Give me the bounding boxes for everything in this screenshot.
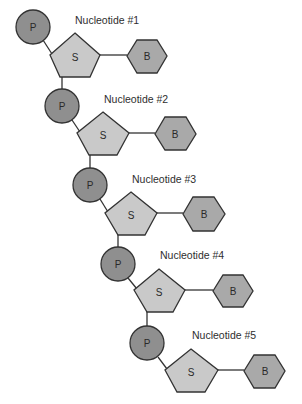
- nucleotide-2: P S B Nucleotide #2: [45, 89, 196, 168]
- base-symbol: B: [172, 129, 179, 140]
- nucleotide-label: Nucleotide #2: [104, 93, 168, 105]
- sugar-symbol: S: [72, 52, 79, 63]
- sugar-symbol: S: [128, 210, 135, 221]
- nucleotide-chain-diagram: P S B Nucleotide #1 P S B Nucleotide #2 …: [0, 0, 302, 404]
- base-symbol: B: [201, 209, 208, 220]
- sugar-symbol: S: [156, 287, 163, 298]
- sugar-symbol: S: [100, 130, 107, 141]
- sugar-symbol: S: [188, 367, 195, 378]
- nucleotide-1: P S B Nucleotide #1: [16, 10, 167, 89]
- base-symbol: B: [262, 366, 269, 377]
- base-symbol: B: [144, 51, 151, 62]
- phosphate-sugar-bond: [158, 357, 167, 369]
- nucleotide-label: Nucleotide #1: [75, 14, 139, 26]
- nucleotide-label: Nucleotide #5: [192, 329, 256, 341]
- nucleotide-label: Nucleotide #4: [160, 249, 224, 261]
- phosphate-sugar-bond: [72, 120, 80, 132]
- phosphate-symbol: P: [30, 22, 37, 33]
- phosphate-sugar-bond: [43, 40, 52, 54]
- phosphate-symbol: P: [144, 338, 151, 349]
- nucleotide-label: Nucleotide #3: [132, 173, 196, 185]
- phosphate-sugar-bond: [100, 199, 108, 212]
- nucleotide-3: P S B Nucleotide #3: [73, 168, 225, 247]
- base-symbol: B: [230, 286, 237, 297]
- phosphate-symbol: P: [87, 180, 94, 191]
- phosphate-sugar-bond: [128, 278, 137, 289]
- nucleotide-4: P S B Nucleotide #4: [101, 247, 253, 326]
- phosphate-symbol: P: [59, 101, 66, 112]
- phosphate-symbol: P: [115, 259, 122, 270]
- nucleotide-5: P S B Nucleotide #5: [130, 326, 285, 392]
